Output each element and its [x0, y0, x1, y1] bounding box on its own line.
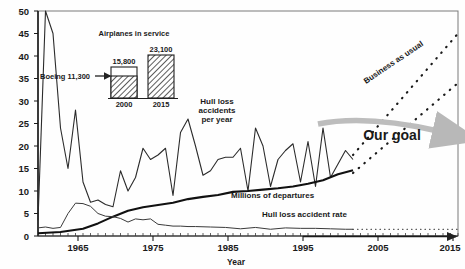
x-tick-2005: 2005	[367, 242, 389, 253]
inset-bar-2015-category: 2015	[153, 100, 170, 109]
y-axis-tick-labels: 50 45 40 35 30 25 20 15 10 5 0	[18, 6, 29, 242]
inset-bar-2000-value: 15,800	[113, 57, 136, 66]
hull-loss-accident-rate-annotation: Hull loss accident rate	[262, 210, 347, 219]
our-goal-annotation: Our goal	[363, 127, 421, 143]
inset-bar-2000-boeing	[111, 76, 137, 98]
y-tick-35: 35	[18, 73, 29, 84]
y-tick-30: 30	[18, 96, 29, 107]
y-tick-15: 15	[18, 163, 29, 174]
inset-airplanes-in-service: Airplanes in service 15,800 2000 23,100 …	[40, 29, 178, 109]
chart-container: 50 45 40 35 30 25 20 15 10 5 0 1965 1975…	[0, 0, 465, 269]
y-tick-5: 5	[24, 208, 30, 219]
inset-boeing-label: Boeing 11,300	[40, 72, 90, 81]
inset-bar-2015-value: 23,100	[150, 45, 173, 54]
hull-loss-line-2: accidents	[199, 106, 236, 115]
y-tick-50: 50	[18, 6, 29, 17]
x-axis-title: Year	[227, 257, 246, 267]
x-tick-1965: 1965	[67, 242, 89, 253]
millions-of-departures-annotation: Millions of departures	[231, 191, 315, 200]
hull-loss-accidents-annotation: Hull loss accidents per year	[199, 97, 236, 124]
series-hull-loss-accidents	[38, 11, 353, 220]
aviation-safety-chart: 50 45 40 35 30 25 20 15 10 5 0 1965 1975…	[0, 0, 465, 269]
y-tick-0: 0	[24, 231, 29, 242]
inset-title: Airplanes in service	[99, 29, 170, 38]
x-tick-2015: 2015	[439, 242, 461, 253]
business-as-usual-annotation: Business as usual	[362, 39, 425, 85]
x-tick-1985: 1985	[217, 242, 239, 253]
inset-bar-2015-total	[148, 55, 174, 98]
x-axis-tick-labels: 1965 1975 1985 1995 2005 2015	[67, 242, 461, 253]
inset-bar-2000-category: 2000	[116, 100, 133, 109]
hull-loss-line-1: Hull loss	[200, 97, 234, 106]
y-tick-10: 10	[18, 186, 29, 197]
x-tick-1975: 1975	[142, 242, 164, 253]
hull-loss-line-3: per year	[201, 115, 232, 124]
y-tick-45: 45	[18, 28, 29, 39]
series-millions-of-departures	[38, 170, 353, 233]
y-tick-40: 40	[18, 51, 29, 62]
x-tick-1995: 1995	[292, 242, 314, 253]
y-tick-20: 20	[18, 141, 29, 152]
y-tick-25: 25	[18, 118, 29, 129]
